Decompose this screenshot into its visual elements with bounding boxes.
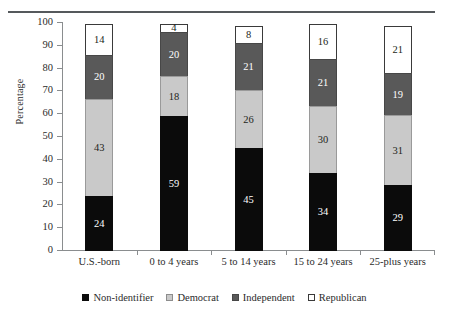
y-tick-mark	[57, 204, 62, 205]
y-tick-mark	[57, 159, 62, 160]
bar-segment-value: 31	[392, 146, 403, 156]
bar-15-to-24-years: 16213034	[309, 24, 337, 250]
y-tick-label: 30	[43, 177, 54, 187]
legend-label: Non-identifier	[93, 292, 153, 303]
legend-swatch-icon	[166, 294, 173, 301]
legend-item-republican[interactable]: Republican	[308, 292, 367, 303]
bar-segment-value: 59	[169, 179, 180, 189]
bar-segment-republican: 14	[85, 24, 113, 56]
plot-area: 0102030405060708090100 14204324420185982…	[62, 22, 435, 250]
bar-segment-value: 24	[94, 219, 105, 229]
chart-legend: Non-identifierDemocratIndependentRepubli…	[0, 292, 449, 303]
y-tick-label: 10	[43, 222, 54, 232]
legend-swatch-icon	[308, 294, 315, 301]
bar-segment-value: 14	[94, 35, 105, 45]
legend-item-non-identifier[interactable]: Non-identifier	[82, 292, 153, 303]
bar-segment-value: 18	[169, 92, 180, 102]
bar-segment-value: 20	[169, 50, 180, 60]
y-tick-mark	[57, 227, 62, 228]
y-tick-mark	[57, 250, 62, 251]
bar-segment-value: 30	[318, 135, 329, 145]
stacked-bar-chart-figure: Percentage 0102030405060708090100 142043…	[0, 0, 449, 326]
bar-segment-democrat: 43	[85, 99, 113, 197]
bar-segment-non-identifier: 24	[85, 196, 113, 251]
x-tick-mark	[137, 250, 138, 255]
bar-segment-value: 8	[246, 30, 251, 40]
bar-segment-republican: 8	[235, 26, 263, 44]
bar-segment-value: 20	[94, 72, 105, 82]
bar-segment-non-identifier: 59	[160, 116, 188, 251]
bar-segment-value: 43	[94, 143, 105, 153]
y-axis-title: Percentage	[14, 47, 25, 157]
bar-segment-value: 19	[392, 90, 403, 100]
y-tick-label: 0	[48, 245, 53, 255]
y-tick-label: 100	[37, 17, 53, 27]
y-tick-label: 80	[43, 63, 54, 73]
bar-segment-democrat: 31	[384, 115, 412, 186]
bar-segment-value: 21	[318, 78, 329, 88]
bar-segment-non-identifier: 34	[309, 173, 337, 251]
bar-0-to-4-years: 4201859	[160, 24, 188, 250]
bar-25-plus-years: 21193129	[384, 26, 412, 250]
y-tick-mark	[57, 113, 62, 114]
top-divider-rule	[8, 11, 435, 13]
bar-segment-democrat: 18	[160, 76, 188, 117]
bar-u-s-born: 14204324	[85, 24, 113, 250]
x-tick-mark	[360, 250, 361, 255]
bar-segment-independent: 20	[160, 32, 188, 78]
y-tick-mark	[57, 45, 62, 46]
y-tick-label: 90	[43, 40, 54, 50]
bar-segment-value: 26	[243, 115, 254, 125]
bar-segment-independent: 19	[384, 73, 412, 116]
x-tick-mark	[286, 250, 287, 255]
y-tick-mark	[57, 22, 62, 23]
bar-segment-democrat: 30	[309, 106, 337, 174]
bar-segment-value: 21	[243, 62, 254, 72]
bar-segment-independent: 20	[85, 55, 113, 101]
y-tick-label: 70	[43, 85, 54, 95]
bar-segment-value: 29	[392, 213, 403, 223]
legend-label: Independent	[243, 292, 295, 303]
bar-segment-independent: 21	[235, 43, 263, 91]
legend-swatch-icon	[82, 294, 89, 301]
bar-segment-independent: 21	[309, 59, 337, 107]
x-tick-mark	[211, 250, 212, 255]
bar-segment-value: 21	[392, 45, 403, 55]
bar-segment-value: 16	[318, 37, 329, 47]
y-tick-label: 20	[43, 199, 54, 209]
y-tick-mark	[57, 90, 62, 91]
y-tick-mark	[57, 136, 62, 137]
y-axis-line	[62, 22, 63, 251]
y-tick-mark	[57, 68, 62, 69]
bar-segment-non-identifier: 45	[235, 148, 263, 251]
bar-segment-value: 34	[318, 207, 329, 217]
legend-item-democrat[interactable]: Democrat	[166, 292, 218, 303]
bar-segment-republican: 16	[309, 24, 337, 60]
legend-item-independent[interactable]: Independent	[232, 292, 295, 303]
bar-segment-democrat: 26	[235, 90, 263, 149]
legend-label: Democrat	[177, 292, 218, 303]
bar-segment-value: 45	[243, 195, 254, 205]
y-tick-mark	[57, 182, 62, 183]
bar-segment-republican: 21	[384, 26, 412, 74]
legend-label: Republican	[319, 292, 367, 303]
x-category-label-25-plus-years: 25-plus years	[353, 256, 443, 268]
bar-5-to-14-years: 8212645	[235, 26, 263, 250]
bar-segment-non-identifier: 29	[384, 185, 412, 251]
y-tick-label: 50	[43, 131, 54, 141]
y-tick-label: 60	[43, 108, 54, 118]
legend-swatch-icon	[232, 294, 239, 301]
y-tick-label: 40	[43, 154, 54, 164]
x-axis-end-tick	[434, 250, 435, 255]
